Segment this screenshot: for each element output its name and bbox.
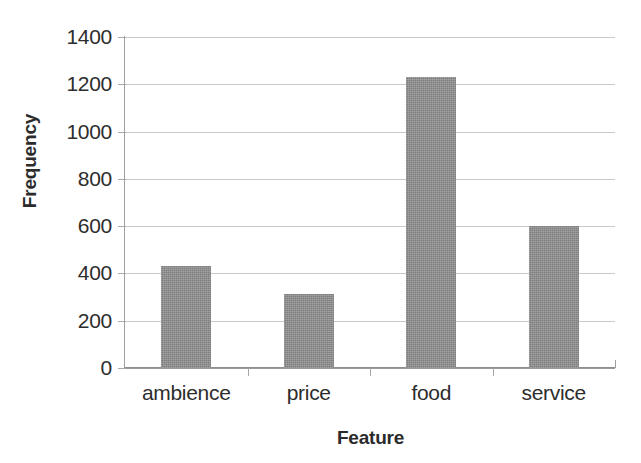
y-tick-mark-1000: [118, 132, 126, 133]
plot-area: 0200400600800100012001400: [125, 37, 615, 368]
x-category-label-ambience: ambience: [125, 381, 248, 405]
y-axis-title: Frequency: [19, 91, 41, 231]
x-category-label-food: food: [370, 381, 493, 405]
y-tick-label-1400: 1400: [66, 25, 112, 49]
x-tick-mark-2: [370, 368, 371, 376]
x-axis-right-cap: [615, 360, 616, 368]
x-category-label-service: service: [493, 381, 616, 405]
y-tick-mark-0: [118, 368, 126, 369]
bar-food[interactable]: [406, 77, 456, 368]
y-tick-mark-1400: [118, 37, 126, 38]
y-tick-mark-800: [118, 179, 126, 180]
x-tick-mark-1: [248, 368, 249, 376]
y-tick-mark-400: [118, 273, 126, 274]
y-tick-mark-200: [118, 321, 126, 322]
y-tick-label-1200: 1200: [66, 72, 112, 96]
y-tick-label-400: 400: [78, 261, 112, 285]
gridline-1400: [125, 37, 615, 38]
y-tick-mark-1200: [118, 84, 126, 85]
y-tick-label-200: 200: [78, 309, 112, 333]
gridline-1200: [125, 84, 615, 85]
plot-frame: 0200400600800100012001400: [125, 37, 615, 368]
bar-service[interactable]: [529, 226, 579, 368]
y-tick-label-1000: 1000: [66, 120, 112, 144]
y-tick-mark-600: [118, 226, 126, 227]
x-axis-title: Feature: [0, 427, 641, 449]
y-tick-label-0: 0: [101, 356, 112, 380]
bar-price[interactable]: [284, 294, 334, 368]
bar-ambience[interactable]: [161, 266, 211, 368]
gridline-800: [125, 179, 615, 180]
y-axis-line: [124, 36, 125, 369]
y-tick-label-800: 800: [78, 167, 112, 191]
gridline-1000: [125, 132, 615, 133]
bar-chart-figure: Frequency 0200400600800100012001400 ambi…: [0, 0, 641, 463]
x-category-label-price: price: [248, 381, 371, 405]
y-tick-label-600: 600: [78, 214, 112, 238]
x-tick-mark-3: [493, 368, 494, 376]
